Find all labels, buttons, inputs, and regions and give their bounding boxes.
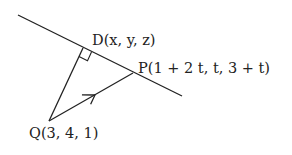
vector-q-p	[49, 73, 133, 121]
label-point-p: P(1 + 2 t, t, 3 + t)	[138, 61, 270, 76]
segment-q-d	[49, 48, 83, 121]
label-point-q: Q(3, 4, 1)	[29, 126, 98, 141]
line-through-d-p	[18, 15, 182, 96]
label-point-d: D(x, y, z)	[92, 33, 155, 48]
arrowhead-icon	[82, 94, 96, 105]
